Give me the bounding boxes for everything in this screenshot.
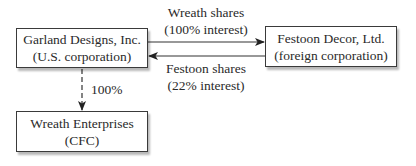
wreath-name: Wreath Enterprises bbox=[17, 115, 147, 132]
ownership-percent: 100% bbox=[91, 82, 123, 97]
festoon-shares-text: Festoon shares bbox=[150, 60, 262, 77]
festoon-type: (foreign corporation) bbox=[266, 47, 396, 64]
wreath-enterprises-node: Wreath Enterprises (CFC) bbox=[16, 111, 148, 152]
festoon-shares-label: Festoon shares (22% interest) bbox=[150, 60, 262, 94]
wreath-shares-label: Wreath shares (100% interest) bbox=[150, 4, 262, 38]
festoon-decor-node: Festoon Decor, Ltd. (foreign corporation… bbox=[265, 26, 397, 67]
garland-designs-node: Garland Designs, Inc. (U.S. corporation) bbox=[16, 28, 148, 68]
wreath-type: (CFC) bbox=[17, 132, 147, 149]
festoon-shares-interest: (22% interest) bbox=[150, 77, 262, 94]
wreath-shares-interest: (100% interest) bbox=[150, 21, 262, 38]
festoon-name: Festoon Decor, Ltd. bbox=[266, 30, 396, 47]
garland-name: Garland Designs, Inc. bbox=[17, 31, 147, 48]
ownership-label: 100% bbox=[91, 81, 123, 98]
garland-type: (U.S. corporation) bbox=[17, 48, 147, 65]
wreath-shares-text: Wreath shares bbox=[150, 4, 262, 21]
